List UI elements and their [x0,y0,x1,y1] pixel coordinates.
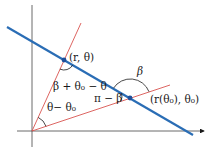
label-r-theta: (r, θ) [69,51,94,63]
label-theta-diff: θ− θ₀ [47,101,76,113]
label-beta: β [136,65,143,77]
label-top-angle: β + θ₀ − θ [53,80,107,92]
point-r-theta0 [128,96,133,101]
arc-beta [114,79,150,92]
label-r-theta0: (r(θ₀), θ₀) [150,93,199,105]
label-pi-minus-beta: π − β [94,92,122,104]
polar-line-diagram: (r, θ) (r(θ₀), θ₀) β β + θ₀ − θ π − β θ−… [0,0,210,152]
ray-theta [32,23,81,131]
arc-theta-diff [38,117,46,126]
point-r-theta [62,58,67,63]
